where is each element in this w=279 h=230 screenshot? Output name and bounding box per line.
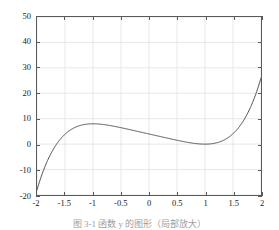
x-tick-label: -0.5 [114,199,127,208]
x-tick-label: 1.5 [228,199,239,208]
x-tick-label: 2 [260,199,264,208]
x-tick-label: -1 [89,199,96,208]
x-tick-label: 0 [147,199,151,208]
x-tick-label: -2 [32,199,39,208]
x-tick-label: 1 [203,199,207,208]
figure-caption: 图 3-1 函数 y 的图形（局部放大） [0,219,279,230]
x-axis-tick-labels: -2-1.5-1-0.500.511.52 [0,0,279,230]
x-tick-label: -1.5 [58,199,71,208]
figure-container: -20-1001020304050 -2-1.5-1-0.500.511.52 … [0,0,279,230]
x-tick-label: 0.5 [172,199,183,208]
